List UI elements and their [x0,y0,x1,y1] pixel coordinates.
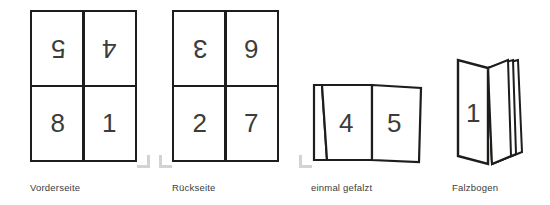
page-number-fold-left: 4 [339,110,353,136]
page-number: 8 [51,110,65,136]
page-cell-rueckseite-top-left: 3 [174,12,226,86]
caption-rueckseite: Rückseite [172,182,216,193]
page-cell-vorderseite-top-right: 4 [84,12,136,86]
caption-falzbogen: Falzbogen [452,182,498,193]
page-number: 4 [102,36,116,62]
page-cell-rueckseite-bottom-left: 2 [174,86,226,160]
page-number: 3 [193,36,207,62]
page-number: 6 [244,36,258,62]
page-cell-rueckseite-top-right: 6 [226,12,278,86]
page-number: 7 [244,110,258,136]
page-number-cover: 1 [466,100,480,126]
crop-mark-einmal-gefalzt [299,155,312,168]
page-number: 5 [51,36,65,62]
sheet-vorderseite: 5 4 8 1 [30,10,137,162]
page-number-fold-right: 5 [387,110,401,136]
booklet-page-edge-1 [488,60,511,164]
page-number: 1 [102,110,116,136]
diagram-canvas: 5 4 8 1 Vorderseite 3 6 2 7 Rückse [0,0,550,205]
caption-einmal-gefalzt: einmal gefalzt [311,182,372,193]
page-number: 2 [193,110,207,136]
page-cell-vorderseite-bottom-right: 1 [84,86,136,160]
crop-mark-vorderseite [137,155,150,168]
caption-vorderseite: Vorderseite [30,182,80,193]
folded-sheet-einmal-gefalzt: 4 5 [305,80,425,166]
crop-mark-rueckseite [159,155,172,168]
page-cell-vorderseite-bottom-left: 8 [32,86,84,160]
page-cell-vorderseite-top-left: 5 [32,12,84,86]
page-cell-rueckseite-bottom-right: 7 [226,86,278,160]
sheet-rueckseite: 3 6 2 7 [172,10,279,162]
booklet-falzbogen: 1 [452,56,538,172]
